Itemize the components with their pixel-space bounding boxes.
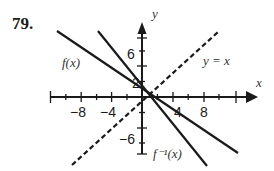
graph: −8 −4 4 8 6 2 −6 y x f(x) y = x f⁻¹(x) (0, 0, 274, 171)
y-tick-label-neg6: −6 (119, 131, 135, 147)
f-inverse-label: f⁻¹(x) (153, 146, 182, 161)
y-tick-label-6: 6 (127, 46, 135, 62)
y-axis-label: y (150, 6, 158, 21)
x-tick-label-neg8: −8 (70, 104, 86, 120)
y-tick-label-2: 2 (132, 75, 140, 91)
x-axis-arrow-icon (246, 91, 258, 103)
identity-label: y = x (201, 53, 230, 68)
x-tick-label-4: 4 (174, 104, 182, 120)
y-axis-arrow-icon (138, 22, 147, 34)
x-axis-label: x (255, 75, 262, 90)
f-label: f(x) (62, 55, 80, 70)
x-tick-label-neg4: −4 (100, 104, 116, 120)
identity-line (72, 32, 218, 165)
x-tick-label-8: 8 (200, 104, 208, 120)
